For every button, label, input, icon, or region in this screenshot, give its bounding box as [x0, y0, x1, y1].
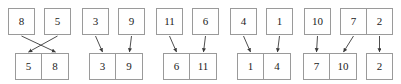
output-cell: 7: [303, 53, 330, 80]
input-box: 2: [366, 8, 393, 35]
input-box: 1: [266, 8, 293, 35]
output-cell: 10: [330, 53, 357, 80]
input-box: 3: [82, 8, 109, 35]
input-box: 5: [44, 8, 71, 35]
output-cell: 9: [116, 53, 143, 80]
input-box: 8: [8, 8, 35, 35]
input-box: 9: [118, 8, 145, 35]
input-box: 10: [304, 8, 331, 35]
output-cell: 11: [190, 53, 217, 80]
output-cell: 3: [89, 53, 116, 80]
input-box: 6: [192, 8, 219, 35]
box-layer: 85583939116611411410771022: [0, 0, 401, 84]
output-cell: 5: [15, 53, 42, 80]
output-cell: 2: [366, 53, 393, 80]
output-cell: 6: [163, 53, 190, 80]
output-cell: 4: [264, 53, 291, 80]
merge-diagram: 85583939116611411410771022: [0, 0, 401, 84]
input-box: 11: [156, 8, 183, 35]
output-cell: 8: [42, 53, 69, 80]
output-cell: 1: [237, 53, 264, 80]
input-box: 7: [340, 8, 367, 35]
input-box: 4: [230, 8, 257, 35]
